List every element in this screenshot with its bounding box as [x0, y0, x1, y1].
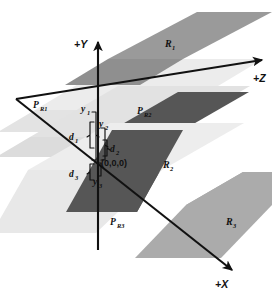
dim-label-y2: y — [98, 119, 104, 129]
region-label-r2: R — [162, 159, 170, 170]
region-label-r3: R — [225, 216, 233, 227]
plane-label-pr3-group: P R3 — [110, 217, 125, 229]
dim-label-y1-sub: 1 — [87, 109, 90, 116]
region-r3-top — [186, 172, 272, 205]
dim-label-d3: d — [69, 169, 74, 179]
plane-label-pr2: P — [137, 106, 143, 116]
region-label-r2-sub: 2 — [169, 165, 174, 172]
dim-label-y3: y — [92, 177, 98, 187]
dim-label-d1-sub: 1 — [75, 137, 78, 144]
diagram-root: +Y +Z +X (0,0,0) P R1 P R2 P R3 R 1 R 2 … — [0, 0, 280, 298]
dim-label-y1: y — [80, 104, 86, 114]
axis-label-y: +Y — [74, 38, 88, 50]
plane-label-pr1-sub: R1 — [39, 105, 47, 112]
axis-label-z: +Z — [253, 72, 266, 84]
region-label-r1: R — [164, 38, 172, 49]
region-r3-group — [135, 172, 272, 258]
dim-label-d2: d — [110, 144, 115, 154]
dim-label-d1: d — [69, 132, 74, 142]
axis-label-x: +X — [215, 278, 229, 290]
region-r1 — [108, 12, 272, 59]
region-label-r1-sub: 1 — [172, 44, 175, 51]
region-r3-front — [135, 205, 272, 258]
plane-label-pr3-sub: R3 — [116, 222, 125, 229]
plane-label-pr3: P — [110, 217, 116, 227]
plane-label-pr2-sub: R2 — [143, 111, 152, 118]
plane-label-pr1: P — [33, 100, 39, 110]
coordinate-system-diagram: +Y +Z +X (0,0,0) P R1 P R2 P R3 R 1 R 2 … — [0, 0, 280, 298]
